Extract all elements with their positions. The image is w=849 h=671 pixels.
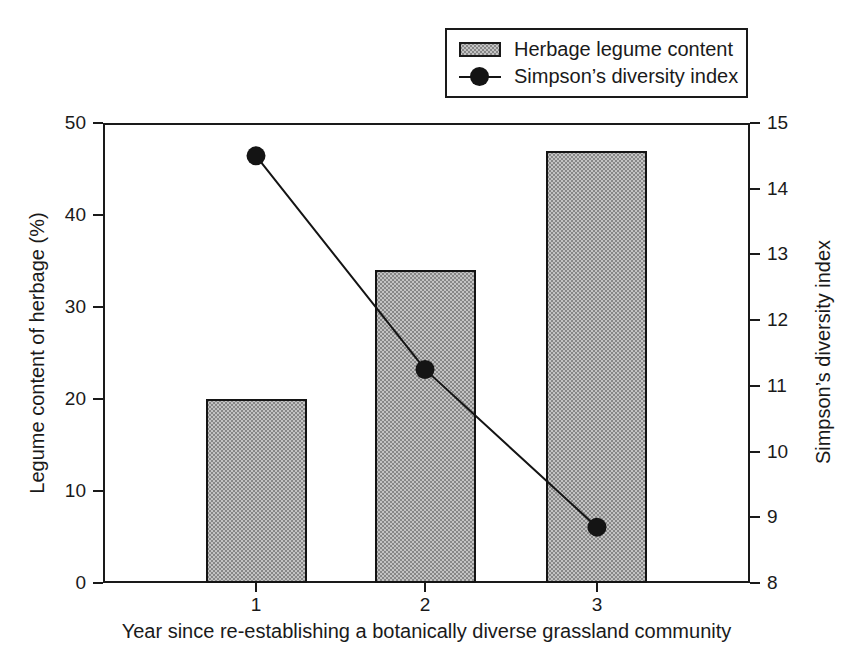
y-axis-left-tick-label: 20 <box>0 388 86 410</box>
y-axis-left-tick <box>93 490 103 492</box>
y-axis-right-tick-label: 10 <box>767 441 827 463</box>
y-axis-left-tick <box>93 398 103 400</box>
y-axis-right-tick <box>750 319 760 321</box>
dual-axis-chart: Herbage legume content Simpson’s diversi… <box>0 0 849 671</box>
diversity-point <box>416 360 435 379</box>
y-axis-left-tick-label: 0 <box>0 572 86 594</box>
y-axis-left-tick <box>93 306 103 308</box>
y-axis-left-tick-label: 40 <box>0 204 86 226</box>
legend-label-simpsons-index: Simpson’s diversity index <box>514 65 738 88</box>
y-axis-right-tick <box>750 582 760 584</box>
diversity-line-layer <box>103 123 750 583</box>
x-axis-tick-label: 2 <box>385 594 465 616</box>
y-axis-left-tick-label: 30 <box>0 296 86 318</box>
y-axis-right-tick <box>750 253 760 255</box>
y-axis-left-tick-label: 50 <box>0 112 86 134</box>
y-axis-right-tick-label: 11 <box>767 375 827 397</box>
y-axis-right-tick <box>750 122 760 124</box>
y-axis-right-tick-label: 9 <box>767 506 827 528</box>
legend: Herbage legume content Simpson’s diversi… <box>445 28 748 98</box>
y-axis-right-tick-label: 15 <box>767 112 827 134</box>
y-axis-right-tick <box>750 451 760 453</box>
diversity-line <box>256 156 597 527</box>
y-axis-right-tick <box>750 188 760 190</box>
x-axis-tick-label: 1 <box>216 594 296 616</box>
diversity-point <box>247 146 266 165</box>
y-axis-right-tick <box>750 516 760 518</box>
legend-item-herbage-legume: Herbage legume content <box>459 38 746 62</box>
diversity-point <box>587 518 606 537</box>
y-axis-right-tick-label: 13 <box>767 243 827 265</box>
y-axis-right-tick-label: 14 <box>767 178 827 200</box>
legend-line-marker-icon <box>459 67 501 86</box>
x-axis-title: Year since re-establishing a botanically… <box>75 620 778 644</box>
legend-label-herbage-legume: Herbage legume content <box>514 38 733 61</box>
left-axis-title: Legume content of herbage (%) <box>26 123 48 583</box>
y-axis-left-tick-label: 10 <box>0 480 86 502</box>
x-axis-tick <box>255 583 257 592</box>
legend-item-simpsons-index: Simpson’s diversity index <box>459 65 746 89</box>
legend-dot-icon <box>470 67 489 86</box>
y-axis-right-tick <box>750 385 760 387</box>
y-axis-left-tick <box>93 122 103 124</box>
y-axis-right-tick-label: 12 <box>767 309 827 331</box>
legend-bar-swatch-icon <box>459 42 501 57</box>
x-axis-tick <box>424 583 426 592</box>
y-axis-right-tick-label: 8 <box>767 572 827 594</box>
x-axis-tick-label: 3 <box>557 594 637 616</box>
y-axis-left-tick <box>93 582 103 584</box>
y-axis-left-tick <box>93 214 103 216</box>
x-axis-tick <box>596 583 598 592</box>
